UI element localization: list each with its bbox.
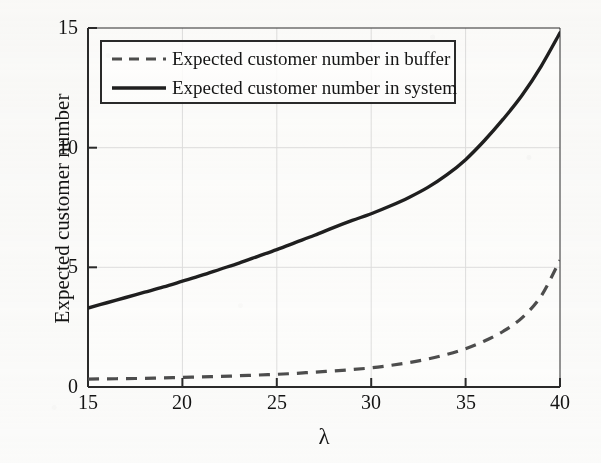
legend-label-buffer: Expected customer number in buffer bbox=[172, 48, 450, 70]
legend-label-system: Expected customer number in system bbox=[172, 77, 457, 99]
legend-entry-system: Expected customer number in system bbox=[102, 73, 454, 102]
x-axis-label: λ bbox=[88, 424, 560, 450]
legend-solid-line-icon bbox=[110, 81, 168, 95]
x-tick-label-30: 30 bbox=[347, 392, 395, 412]
figure-container: 0 5 10 15 15 20 25 30 35 40 Expected cus… bbox=[0, 0, 601, 463]
legend-entry-buffer: Expected customer number in buffer bbox=[102, 44, 454, 73]
x-tick-label-15: 15 bbox=[64, 392, 112, 412]
x-tick-label-40: 40 bbox=[536, 392, 584, 412]
legend: Expected customer number in buffer Expec… bbox=[100, 40, 456, 104]
x-tick-label-25: 25 bbox=[253, 392, 301, 412]
y-tick-label-15: 15 bbox=[34, 17, 78, 37]
legend-dashed-line-icon bbox=[110, 52, 168, 66]
x-tick-label-35: 35 bbox=[442, 392, 490, 412]
y-axis-label: Expected customer number bbox=[50, 59, 75, 359]
x-tick-label-20: 20 bbox=[158, 392, 206, 412]
